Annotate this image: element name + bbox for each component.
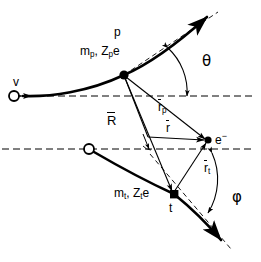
r-vector [148,137,204,140]
r-t-vector [174,143,206,192]
r-vector-symbol: r [166,122,170,134]
target-charge-unit: e [143,186,150,200]
target-node [170,190,178,198]
theta-arc [168,48,187,96]
electron-node [204,136,211,143]
target-start-marker [84,144,94,154]
r-t-subscript: t [208,167,210,176]
projectile-symbol-label: p [114,26,121,38]
projectile-start-marker [9,91,19,101]
R-vector-symbol: R [107,114,116,127]
electron-charge-sign: − [222,131,227,141]
r-p-base: r [158,101,162,113]
projectile-charge-symbol: , Z [95,44,109,58]
phi-label: φ [232,190,242,205]
scattering-diagram: p mp, Zpe v θ rp R r e− rt φ mt, Zte t [0,0,261,262]
target-mass-symbol: m [114,186,124,200]
target-asymptote-dashed [150,154,231,249]
projectile-incoming-path [23,75,124,96]
r-p-label: rp [158,101,167,115]
r-vector-label: r [166,122,170,134]
r-t-base: r [204,162,208,174]
electron-label: e− [215,132,227,146]
projectile-charge-unit: e [113,44,120,58]
r-t-label: rt [204,162,210,176]
projectile-node [119,70,128,79]
target-charge-symbol: , Z [126,186,140,200]
target-mass-charge-label: mt, Zte [114,187,149,201]
projectile-mass-charge-label: mp, Zpe [80,45,120,59]
r-p-subscript: p [162,106,167,115]
theta-label: θ [202,54,211,69]
projectile-mass-symbol: m [80,44,90,58]
velocity-label: v [13,76,19,88]
R-vector-label: R [107,114,116,127]
electron-symbol: e [215,133,222,147]
target-symbol-label: t [169,202,172,214]
projectile-outgoing-path [124,17,207,75]
R-vector-leg [125,78,148,137]
